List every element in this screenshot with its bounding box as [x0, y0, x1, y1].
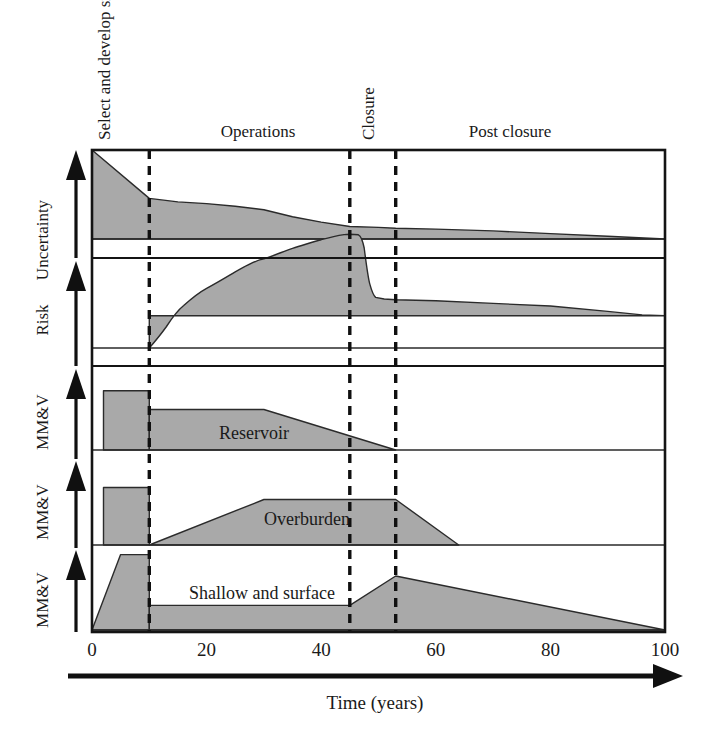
x-tick-60: 60 — [426, 639, 445, 660]
area-overburden-preop-block — [104, 488, 150, 546]
x-tick-80: 80 — [541, 639, 560, 660]
row-label-mmv-overburden: MM&V — [33, 483, 52, 539]
x-tick-100: 100 — [651, 639, 680, 660]
x-tick-40: 40 — [312, 639, 331, 660]
row-label-mmv-shallow: MM&V — [33, 571, 52, 627]
row-label-risk: Risk — [33, 304, 52, 336]
x-axis-title: Time (years) — [327, 692, 424, 714]
x-tick-20: 20 — [197, 639, 216, 660]
row-label-mmv-reservoir: MM&V — [33, 393, 52, 449]
phase-label-closure: Closure — [359, 87, 378, 140]
band-label-shallow-and-surface: Shallow and surface — [189, 583, 335, 603]
phase-label-select-and-develop-site: Select and develop site — [95, 0, 114, 140]
x-tick-0: 0 — [87, 639, 97, 660]
area-reservoir-preop-block — [104, 391, 150, 450]
figure-root: Select and develop site Operations Closu… — [0, 0, 702, 738]
band-label-overburden: Overburden — [264, 509, 350, 529]
row-label-uncertainty: Uncertainty — [33, 199, 52, 280]
phase-label-post-closure: Post closure — [469, 122, 552, 141]
ccs-lifecycle-chart: Select and develop site Operations Closu… — [0, 0, 702, 738]
phase-label-operations: Operations — [221, 122, 296, 141]
band-label-reservoir: Reservoir — [219, 423, 289, 443]
